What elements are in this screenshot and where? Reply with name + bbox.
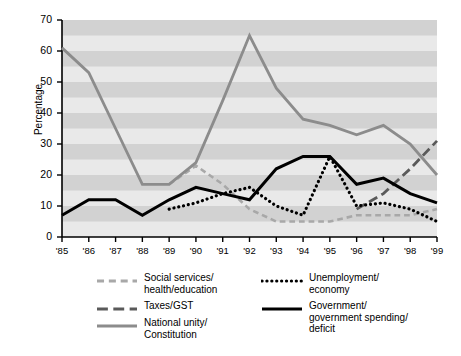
legend-column-left: Social services/health/educationTaxes/GS… — [96, 272, 256, 345]
x-tick-label: '85 — [50, 245, 74, 256]
x-tick-label: '94 — [291, 245, 315, 256]
legend-label-line: Government/ — [309, 300, 451, 312]
legend-swatch-line — [261, 277, 303, 285]
y-tick-label: 70 — [26, 13, 52, 25]
legend-swatch-line — [261, 305, 303, 313]
y-tick-label: 60 — [26, 44, 52, 56]
x-tick-label: '93 — [264, 245, 288, 256]
x-tick-label: '91 — [211, 245, 235, 256]
legend-item[interactable]: Government/government spending/deficit — [261, 300, 451, 335]
x-tick-label: '90 — [184, 245, 208, 256]
x-tick-label: '99 — [425, 245, 449, 256]
legend-label-line: Social services/ — [144, 272, 256, 284]
legend-label: National unity/Constitution — [144, 317, 256, 340]
legend-label-line: deficit — [309, 323, 451, 335]
legend-label-line: National unity/ — [144, 317, 256, 329]
y-tick-label: 10 — [26, 199, 52, 211]
chart-container: Percentage 010203040506070 '85'86'87'88'… — [0, 0, 461, 356]
x-tick-label: '88 — [130, 245, 154, 256]
legend-column-right: Unemployment/economyGovernment/governmen… — [261, 272, 451, 340]
legend-swatch — [261, 276, 303, 282]
legend-swatch — [96, 304, 138, 310]
legend-swatch-line — [96, 277, 138, 285]
x-tick-label: '92 — [238, 245, 262, 256]
legend-item[interactable]: National unity/Constitution — [96, 317, 256, 340]
y-tick-label: 50 — [26, 75, 52, 87]
legend-item[interactable]: Social services/health/education — [96, 272, 256, 295]
y-tick-label: 30 — [26, 137, 52, 149]
legend-swatch — [261, 304, 303, 310]
y-tick-label: 20 — [26, 168, 52, 180]
legend-label: Social services/health/education — [144, 272, 256, 295]
x-tick-label: '98 — [398, 245, 422, 256]
x-tick-label: '86 — [77, 245, 101, 256]
y-tick-label: 0 — [26, 230, 52, 242]
legend-label-line: Constitution — [144, 329, 256, 341]
x-tick-label: '89 — [157, 245, 181, 256]
legend-swatch-line — [96, 322, 138, 330]
x-tick-label: '95 — [318, 245, 342, 256]
legend-label: Government/government spending/deficit — [309, 300, 451, 335]
legend-label-line: Unemployment/ — [309, 272, 451, 284]
legend-label-line: health/education — [144, 284, 256, 296]
legend-item[interactable]: Taxes/GST — [96, 300, 256, 312]
y-tick-label: 40 — [26, 106, 52, 118]
legend-label-line: government spending/ — [309, 312, 451, 324]
legend-label-line: economy — [309, 284, 451, 296]
legend-label-line: Taxes/GST — [144, 300, 256, 312]
legend-swatch — [96, 321, 138, 327]
legend-label: Unemployment/economy — [309, 272, 451, 295]
plot-band — [62, 82, 437, 98]
legend-label: Taxes/GST — [144, 300, 256, 312]
x-tick-label: '87 — [104, 245, 128, 256]
x-tick-label: '96 — [345, 245, 369, 256]
plot-band — [62, 51, 437, 67]
x-tick-label: '97 — [371, 245, 395, 256]
legend-swatch — [96, 276, 138, 282]
plot-band — [62, 144, 437, 160]
legend-swatch-line — [96, 305, 138, 313]
legend-item[interactable]: Unemployment/economy — [261, 272, 451, 295]
